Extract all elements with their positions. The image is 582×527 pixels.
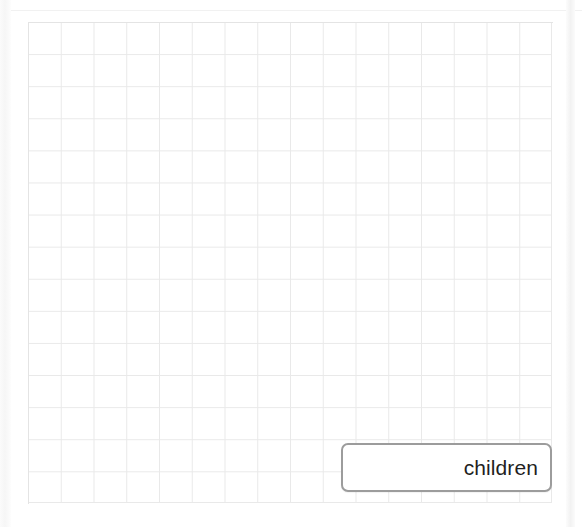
left-scroll-gutter[interactable] xyxy=(0,0,11,527)
answer-text-value: children xyxy=(464,457,538,478)
graph-paper-grid xyxy=(28,22,552,503)
right-scroll-gutter[interactable] xyxy=(566,0,575,527)
page-canvas: children xyxy=(0,0,582,527)
top-divider-rule xyxy=(0,10,582,11)
answer-text-box[interactable]: children xyxy=(341,443,552,492)
